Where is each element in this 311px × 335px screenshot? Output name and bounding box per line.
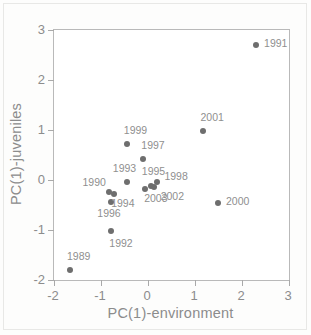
data-point-label: 1995 [142,166,165,177]
data-point-label: 1992 [109,238,132,249]
x-tick [54,280,55,286]
y-tick [48,230,54,231]
y-tick-label: 3 [29,23,45,36]
data-point-label: 1997 [141,140,164,151]
data-point [200,128,206,134]
x-tick-label: -1 [94,289,106,302]
x-tick-label: -2 [47,289,59,302]
x-tick-label: 1 [190,289,197,302]
data-point [67,267,73,273]
x-tick-label: 3 [284,289,291,302]
y-tick-label: 2 [29,73,45,86]
x-tick-label: 2 [237,289,244,302]
y-tick [48,180,54,181]
data-point [215,200,221,206]
y-tick-label: 1 [29,123,45,136]
x-tick [195,280,196,286]
data-point-label: 1998 [164,171,187,182]
data-point-label: 1991 [264,38,287,49]
data-point [140,156,146,162]
data-point-label: 1993 [113,163,136,174]
y-tick [48,280,54,281]
data-point-label: 1996 [97,208,120,219]
y-axis-title: PC(1)-juveniles [8,103,24,205]
data-point-label: 1990 [82,177,105,188]
data-point [108,228,114,234]
y-tick-label: -2 [29,273,45,286]
data-point-label: 2000 [226,196,249,207]
x-tick [148,280,149,286]
plot-area [53,29,290,281]
x-tick [242,280,243,286]
data-point-label: 1989 [67,251,90,262]
x-tick [101,280,102,286]
y-tick [48,30,54,31]
y-tick [48,80,54,81]
data-point [124,141,130,147]
data-point [253,42,259,48]
y-tick-label: -1 [29,223,45,236]
data-point-label: 1999 [124,125,147,136]
data-point-label: 2002 [161,191,184,202]
y-tick [48,130,54,131]
x-tick [289,280,290,286]
data-point [151,184,157,190]
data-point-label: 2001 [200,112,223,123]
data-point [124,179,130,185]
scatter-plot-figure: -2-10123 3210-1-2 1991200120001999199719… [0,0,311,335]
x-tick-label: 0 [143,289,150,302]
y-tick-label: 0 [29,173,45,186]
x-axis-title: PC(1)-environment [53,305,288,321]
